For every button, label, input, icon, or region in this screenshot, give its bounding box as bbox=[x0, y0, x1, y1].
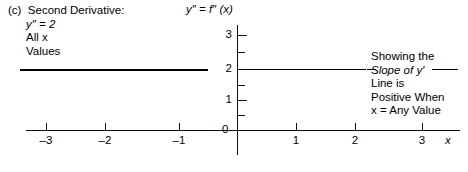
x-tick-mark bbox=[179, 123, 180, 131]
x-tick-mark bbox=[355, 123, 356, 131]
x-tick-label: 3 bbox=[410, 134, 434, 146]
y-tick-mark bbox=[238, 35, 247, 36]
annotation-line-5: x = Any Value bbox=[371, 104, 445, 118]
curve-y-equals-2-right bbox=[238, 69, 366, 70]
origin-label: 0 bbox=[222, 124, 228, 136]
y-tick-label: 2 bbox=[216, 63, 232, 75]
y-tick-label: 1 bbox=[216, 94, 232, 106]
x-axis bbox=[26, 130, 460, 131]
x-tick-mark bbox=[296, 123, 297, 131]
caption-heading: (c) Second Derivative: bbox=[8, 4, 124, 18]
caption-block: (c) Second Derivative: y″ = 2 All x Valu… bbox=[8, 4, 124, 58]
caption-heading-text: Second Derivative: bbox=[28, 4, 125, 16]
x-tick-label: 1 bbox=[284, 134, 308, 146]
x-tick-mark bbox=[105, 123, 106, 131]
plot-title: y″ = f″ (x) bbox=[186, 3, 233, 16]
annotation-line-4: Positive When bbox=[371, 91, 445, 105]
x-axis-name: x bbox=[445, 134, 451, 146]
x-tick-label: –1 bbox=[167, 134, 191, 146]
caption-domain-line2: Values bbox=[8, 45, 124, 59]
y-axis bbox=[237, 25, 238, 155]
x-tick-mark bbox=[422, 123, 423, 131]
y-tick-label: 3 bbox=[216, 29, 232, 41]
y-tick-mark-minor bbox=[238, 85, 245, 86]
caption-equation: y″ = 2 bbox=[8, 18, 124, 32]
curve-y-equals-2-left bbox=[20, 69, 208, 71]
y-tick-mark-minor bbox=[238, 52, 245, 53]
y-tick-mark bbox=[238, 100, 247, 101]
x-tick-label: –2 bbox=[93, 134, 117, 146]
x-tick-mark bbox=[46, 123, 47, 131]
annotation-line-2: Slope of y′ bbox=[371, 64, 445, 78]
annotation-line-1: Showing the bbox=[371, 50, 445, 64]
curve-y-equals-2-dash-right bbox=[432, 69, 458, 70]
annotation-block: Showing the Slope of y′ Line is Positive… bbox=[371, 50, 445, 118]
part-label: (c) bbox=[8, 4, 21, 16]
y-tick-mark-minor bbox=[238, 115, 245, 116]
y-tick-mark bbox=[238, 69, 247, 70]
x-tick-label: –3 bbox=[34, 134, 58, 146]
annotation-line-3: Line is bbox=[371, 77, 445, 91]
figure-second-derivative: (c) Second Derivative: y″ = 2 All x Valu… bbox=[0, 0, 468, 172]
caption-domain-line1: All x bbox=[8, 31, 124, 45]
curve-y-equals-2-dash-left bbox=[367, 69, 376, 70]
x-tick-label: 2 bbox=[343, 134, 367, 146]
